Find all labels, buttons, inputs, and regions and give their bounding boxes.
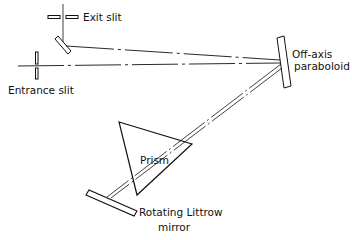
prism-label: Prism — [140, 154, 169, 166]
exit-beam — [66, 46, 280, 60]
monochromator-diagram: Exit slit Entrance slit Off-axis parabol… — [0, 0, 352, 240]
exit-slit — [48, 4, 78, 46]
littrow-label-line1: Rotating Littrow — [139, 206, 223, 218]
littrow-label-line2: mirror — [158, 221, 191, 233]
entrance-beam — [18, 63, 280, 66]
entrance-slit-label: Entrance slit — [8, 84, 74, 96]
off-axis-paraboloid — [277, 36, 291, 88]
paraboloid-label-line2: paraboloid — [294, 60, 350, 72]
exit-slit-label: Exit slit — [83, 11, 122, 23]
paraboloid-label-line1: Off-axis — [292, 48, 332, 60]
